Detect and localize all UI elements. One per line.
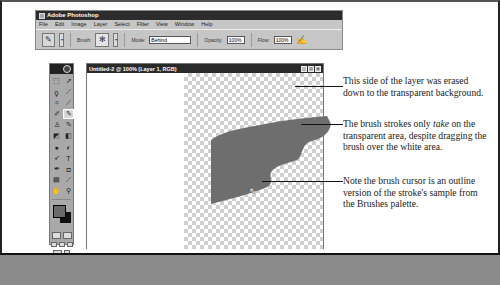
standard-mode-button[interactable] [52,232,61,239]
mode-select[interactable]: Behind [149,36,191,44]
tool-grid: ⬚ ➚ ϙ ⟋ ⌗ ⟋ ✐ ✎ ♙ ✎ ◩ ◧ ● ◐ ➶ T ✒ ◘ ▤ ⟋ … [50,74,73,198]
color-swatches [51,203,72,229]
menu-edit[interactable]: Edit [55,20,64,29]
mode-label: Mode: [131,37,145,43]
shape-tool-icon[interactable]: ◘ [63,164,74,174]
quick-mask-button[interactable] [63,232,72,239]
menu-filter[interactable]: Filter [137,20,149,29]
divider [251,33,252,47]
screen-mode-buttons [50,242,73,247]
pen-tool-icon[interactable]: ✒ [51,164,62,174]
history-brush-tool-icon[interactable]: ✎ [63,120,74,130]
toolbox-header[interactable] [50,64,73,74]
blur-tool-icon[interactable]: ● [51,142,62,152]
chevron-down-icon: ▾ [115,37,117,42]
zoom-tool-icon[interactable]: ⚲ [63,186,74,196]
magic-wand-tool-icon[interactable]: ⟋ [63,87,74,97]
notes-tool-icon[interactable]: ▤ [51,175,62,185]
callout-leader-3 [262,181,343,182]
divider [52,199,71,200]
brush-dropdown[interactable]: ▾ [113,33,118,47]
callout-brush-take: The brush strokes only take on the trans… [343,118,488,153]
minimize-button[interactable]: _ [301,66,307,72]
callout-leader-2 [301,124,343,125]
callout-leader-1 [295,86,343,87]
photoshop-logo-icon [39,13,45,19]
maximize-button[interactable]: □ [308,66,314,72]
chevron-down-icon: ▾ [61,37,63,42]
brush-stroke [205,116,335,206]
dodge-tool-icon[interactable]: ◐ [63,142,74,152]
brush-label: Brush: [77,37,91,43]
type-tool-icon[interactable]: T [63,153,74,163]
standard-screen-button[interactable] [51,242,57,247]
canvas[interactable]: ⇖ [87,73,323,249]
airbrush-icon[interactable]: ✍ [296,35,307,45]
full-screen-button[interactable] [67,242,73,247]
divider [70,33,71,47]
paintbrush-icon: ✎ [45,35,52,44]
options-bar: ✎ ▾ Brush: ✻ ▾ Mode: Behind Opacity: 100… [36,29,342,49]
document-window: Untitled-2 @ 100% (Layer 1, RGB) _ □ × ⇖ [86,63,324,249]
adobe-online-icon[interactable] [63,65,71,73]
document-title: Untitled-2 @ 100% (Layer 1, RGB) [89,66,177,72]
menu-help[interactable]: Help [201,20,212,29]
brush-tip-icon: ✻ [99,35,106,44]
clone-stamp-tool-icon[interactable]: ♙ [51,120,62,130]
opacity-field[interactable]: 100% [227,36,245,44]
menu-layer[interactable]: Layer [94,20,108,29]
caption-bar [0,253,500,285]
menu-select[interactable]: Select [114,20,129,29]
full-screen-menu-button[interactable] [59,242,65,247]
opacity-label: Opacity: [204,37,222,43]
foreground-color-swatch[interactable] [53,205,66,218]
lasso-tool-icon[interactable]: ϙ [51,87,62,97]
flow-field[interactable]: 100% [274,36,292,44]
menu-view[interactable]: View [156,20,168,29]
callout-brush-cursor: Note the brush cursor is an outline vers… [343,175,488,210]
marquee-tool-icon[interactable]: ⬚ [51,76,62,86]
close-button[interactable]: × [315,66,321,72]
menu-bar: File Edit Image Layer Select Filter View… [36,20,342,29]
divider [124,33,125,47]
brush-preset-picker[interactable]: ✻ [95,33,109,47]
eraser-tool-icon[interactable]: ◩ [51,131,62,141]
menu-image[interactable]: Image [71,20,86,29]
path-selection-tool-icon[interactable]: ➶ [51,153,62,163]
move-tool-icon[interactable]: ➚ [63,76,74,86]
crop-tool-icon[interactable]: ⌗ [51,98,62,108]
toolbox-palette: ⬚ ➚ ϙ ⟋ ⌗ ⟋ ✐ ✎ ♙ ✎ ◩ ◧ ● ◐ ➶ T ✒ ◘ ▤ ⟋ … [49,63,74,245]
mask-mode-buttons [50,232,73,239]
gradient-tool-icon[interactable]: ◧ [63,131,74,141]
brush-tool-icon[interactable]: ✎ [63,109,74,119]
app-title-bar: Adobe Photoshop [36,11,342,20]
white-area [87,73,184,249]
photoshop-app-window: Adobe Photoshop File Edit Image Layer Se… [35,10,343,50]
hand-tool-icon[interactable]: ✋ [51,186,62,196]
callout-erased-side: This side of the layer was erased down t… [343,75,488,98]
callout-emphasis: take [433,118,449,129]
app-title: Adobe Photoshop [47,11,99,20]
tool-preset-picker[interactable]: ✎ [42,33,55,47]
callout-text: The brush strokes only [343,118,433,129]
menu-window[interactable]: Window [175,20,195,29]
slice-tool-icon[interactable]: ⟋ [63,98,74,108]
brush-cursor-icon: ⇖ [249,186,257,196]
flow-label: Flow: [258,37,270,43]
divider [197,33,198,47]
menu-file[interactable]: File [39,20,48,29]
healing-brush-tool-icon[interactable]: ✐ [51,109,62,119]
window-controls: _ □ × [301,66,321,72]
tool-preset-dropdown[interactable]: ▾ [59,33,64,47]
eyedropper-tool-icon[interactable]: ⟋ [63,175,74,185]
document-title-bar[interactable]: Untitled-2 @ 100% (Layer 1, RGB) _ □ × [87,64,323,73]
